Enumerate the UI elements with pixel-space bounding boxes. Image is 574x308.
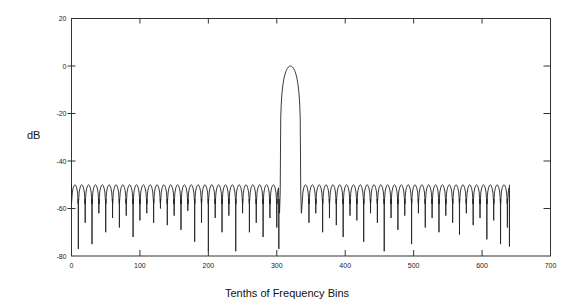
y-tick-label: -60	[56, 205, 66, 212]
x-tick-label: 400	[339, 262, 351, 269]
y-tick-label: -20	[56, 110, 66, 117]
plot-frame	[72, 19, 551, 257]
x-tick-label: 200	[203, 262, 215, 269]
x-tick-label: 700	[545, 262, 557, 269]
x-tick-label: 0	[70, 262, 74, 269]
x-axis-label: Tenths of Frequency Bins	[225, 287, 350, 299]
x-tick-label: 100	[134, 262, 146, 269]
y-tick-label: -80	[56, 253, 66, 260]
y-axis-label: dB	[27, 129, 40, 141]
y-tick-label: -40	[56, 158, 66, 165]
x-tick-label: 600	[476, 262, 488, 269]
spectrum-line	[72, 66, 510, 251]
x-tick-label: 300	[271, 262, 283, 269]
y-tick-label: 20	[59, 15, 67, 22]
x-axis-ticks: 0100200300400500600700	[70, 19, 557, 270]
spectrum-chart: 200-20-40-60-80 0100200300400500600700 d…	[0, 0, 574, 308]
x-tick-label: 500	[408, 262, 420, 269]
y-axis-ticks: 200-20-40-60-80	[56, 15, 550, 260]
y-tick-label: 0	[63, 63, 67, 70]
